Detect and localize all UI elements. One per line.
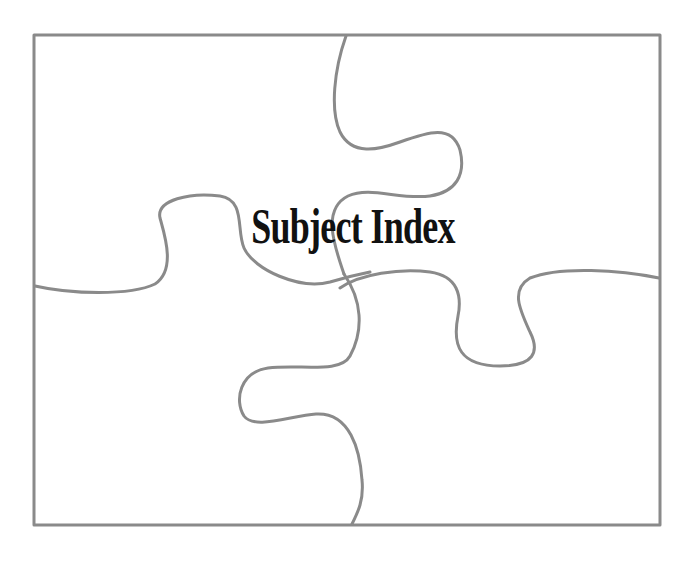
puzzle-seam-bottom bbox=[239, 274, 362, 524]
puzzle-seam-right bbox=[340, 270, 659, 366]
puzzle-frame-illustration bbox=[0, 0, 690, 564]
page-title: Subject Index bbox=[105, 196, 602, 256]
